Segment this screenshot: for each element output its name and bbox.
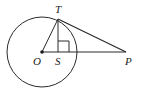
- label-t: T: [55, 3, 62, 15]
- label-o: O: [33, 55, 41, 67]
- right-angle-mark: [58, 41, 69, 52]
- center-point-o: [40, 50, 44, 54]
- segment-ot: [42, 19, 58, 52]
- label-p: P: [124, 55, 132, 67]
- label-s: S: [55, 55, 61, 67]
- geometry-diagram: T O S P: [0, 0, 143, 89]
- segment-tp: [58, 19, 126, 52]
